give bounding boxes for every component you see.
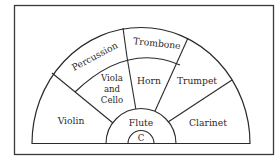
orchestra-seating-diagram: Percussion Trombone Viola and Cello Horn…	[0, 0, 280, 159]
label-percussion: Percussion	[70, 39, 120, 72]
label-flute: Flute	[129, 117, 153, 128]
divider-percussion-trombone	[123, 28, 127, 57]
label-trombone: Trombone	[133, 35, 181, 51]
label-cello: Cello	[101, 95, 123, 105]
label-viola: Viola	[100, 73, 123, 83]
label-horn: Horn	[137, 75, 161, 86]
divider-viola-horn	[127, 57, 136, 110]
label-trumpet: Trumpet	[177, 75, 217, 86]
label-violin: Violin	[57, 115, 85, 126]
label-conductor: C	[138, 133, 145, 143]
label-and: and	[104, 84, 121, 94]
label-clarinet: Clarinet	[189, 117, 227, 128]
